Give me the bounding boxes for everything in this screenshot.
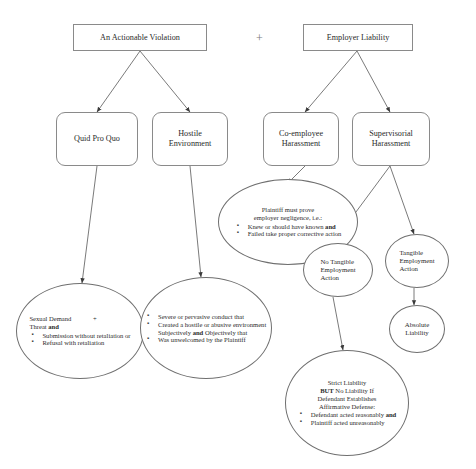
qpq-plus: +	[93, 315, 97, 322]
negligence-bullets: Knew or should have known and Failed tak…	[235, 223, 342, 239]
qpq-and: and	[48, 323, 59, 330]
strict-bullets: Defendant acted reasonably and Plaintiff…	[298, 411, 397, 427]
node-co-employee-harassment[interactable]: Co-employee Harassment	[263, 112, 339, 166]
node-quid-pro-quo[interactable]: Quid Pro Quo	[56, 112, 138, 166]
node-quid-pro-quo-elements[interactable]: Sexual Demand + Threat and Submission wi…	[16, 283, 144, 379]
qpq-bullets: Submission without retaliation or Refusa…	[29, 332, 130, 348]
node-label: Quid Pro Quo	[70, 134, 124, 144]
flowchart-canvas: An Actionable Violation + Employer Liabi…	[0, 0, 476, 469]
node-tangible-action[interactable]: Tangible Employment Action	[385, 234, 449, 288]
node-label-line1: Supervisorial	[369, 129, 413, 138]
node-hostile-env-elements[interactable]: Severe or pervasive conduct that Created…	[140, 277, 272, 379]
list-item: Submission without retaliation or	[42, 332, 130, 340]
list-item: Knew or should have known and	[248, 223, 342, 231]
strict-lead-3: Defendant Establishes	[298, 395, 397, 403]
node-label-line2: Environment	[169, 139, 212, 148]
strict-lead-2: No Liability If	[334, 387, 374, 394]
node-label-line1: Co-employee	[279, 129, 323, 138]
tangible-line2: Employment	[399, 257, 434, 265]
no-tangible-line1: No Tangible	[320, 258, 355, 266]
list-item: Failed take proper corrective action	[248, 230, 342, 238]
list-item: Defendant acted reasonably and	[311, 411, 397, 419]
strict-lead-4: Affirmative Defense:	[298, 403, 397, 411]
node-label-line2: Harassment	[282, 139, 321, 148]
node-hostile-environment[interactable]: Hostile Environment	[152, 112, 228, 166]
tangible-line3: Action	[399, 265, 434, 273]
strict-but: BUT	[320, 387, 334, 394]
node-label-line1: Hostile	[178, 129, 202, 138]
node-label-line2: Harassment	[372, 139, 411, 148]
absolute-line1: Absolute	[405, 321, 430, 329]
node-strict-liability[interactable]: Strict Liability BUT No Liability If Def…	[285, 350, 409, 456]
node-supervisorial-harassment[interactable]: Supervisorial Harassment	[352, 112, 430, 166]
negligence-lead-1: Plaintiff must prove	[235, 206, 342, 214]
node-actionable-violation[interactable]: An Actionable Violation	[73, 24, 207, 51]
node-absolute-liability[interactable]: Absolute Liability	[389, 305, 445, 353]
no-tangible-line3: Action	[320, 274, 355, 282]
qpq-lead-1: Sexual Demand	[29, 315, 71, 322]
list-item: Was unwelcomed by the Plaintiff	[158, 336, 267, 344]
plus-operator: +	[256, 32, 263, 44]
negligence-lead-2: employer negligence, i.e.:	[235, 214, 342, 222]
list-item: Refusal with retaliation	[42, 339, 130, 347]
qpq-lead-2: Threat	[29, 323, 48, 330]
no-tangible-line2: Employment	[320, 266, 355, 274]
list-item: Plaintiff acted unreasonably	[311, 419, 397, 427]
list-item: Created a hostile or abusive environment…	[158, 321, 267, 337]
node-label: An Actionable Violation	[96, 33, 184, 43]
node-employer-liability[interactable]: Employer Liability	[303, 24, 413, 51]
strict-lead-1: Strict Liability	[298, 379, 397, 387]
node-no-tangible-action[interactable]: No Tangible Employment Action	[303, 243, 373, 297]
hostile-bullets: Severe or pervasive conduct that Created…	[145, 313, 267, 344]
list-item: Severe or pervasive conduct that	[158, 313, 267, 321]
node-label: Employer Liability	[323, 33, 394, 43]
absolute-line2: Liability	[405, 329, 430, 337]
tangible-line1: Tangible	[399, 249, 434, 257]
